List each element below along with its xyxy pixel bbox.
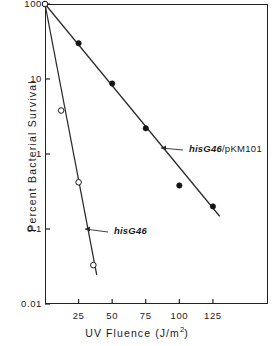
data-point-0-3 bbox=[143, 126, 148, 131]
series-label-hisg46: hisG46 bbox=[114, 225, 147, 236]
uv-survival-chart-figure: 1001010.10.01 255075100125 Percent Bacte… bbox=[0, 0, 274, 346]
plot-canvas bbox=[0, 0, 274, 346]
data-point-1-0 bbox=[42, 1, 48, 7]
data-point-0-2 bbox=[109, 81, 114, 86]
series-label-hisg46-pkm101-plasmid: /pKM101 bbox=[222, 143, 262, 154]
series-fit-line-1 bbox=[45, 4, 97, 275]
series-label-hisg46-pkm101: hisG46/pKM101 bbox=[189, 143, 262, 154]
series-label-hisg46-pkm101-gene: hisG46 bbox=[189, 143, 222, 154]
y-axis-title: Percent Bacterial Survival bbox=[26, 41, 38, 271]
data-point-1-3 bbox=[91, 262, 97, 268]
series-label-hisg46-gene: hisG46 bbox=[114, 225, 147, 236]
series-fit-line-0 bbox=[45, 4, 220, 216]
data-point-0-4 bbox=[177, 183, 182, 188]
data-point-1-1 bbox=[58, 108, 64, 114]
y-tick-label: 100 bbox=[24, 0, 42, 9]
data-point-1-2 bbox=[76, 179, 82, 185]
x-axis-title-main: UV Fluence (J/m bbox=[85, 327, 180, 339]
data-point-0-5 bbox=[210, 204, 215, 209]
data-point-0-1 bbox=[76, 41, 81, 46]
y-tick-label: 0.01 bbox=[21, 298, 42, 309]
x-axis-title-tail: ) bbox=[184, 327, 189, 339]
x-tick-label: 125 bbox=[193, 310, 233, 321]
x-axis-title: UV Fluence (J/m2) bbox=[0, 325, 274, 339]
